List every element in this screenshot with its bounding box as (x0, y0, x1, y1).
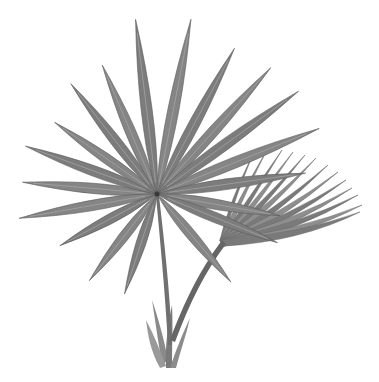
palm-illustration (0, 0, 379, 382)
palm-drawing (0, 0, 379, 382)
frond-center (155, 192, 160, 197)
main-frond (19, 19, 319, 294)
